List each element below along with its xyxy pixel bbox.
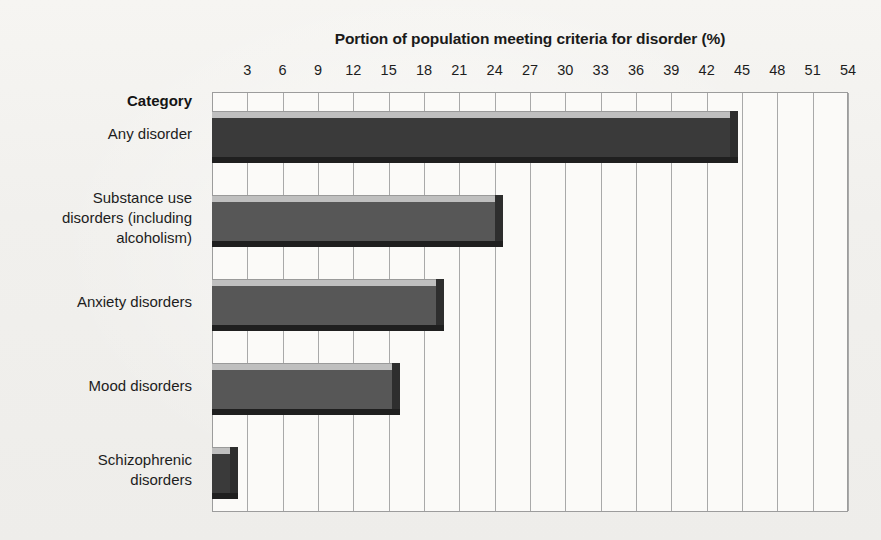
x-tick-label: 51 [805, 62, 821, 78]
x-tick-label: 42 [699, 62, 715, 78]
x-tick-label: 30 [557, 62, 573, 78]
gridline-12 [353, 93, 354, 511]
gridline-9 [318, 93, 319, 511]
x-tick-label: 18 [416, 62, 432, 78]
x-axis-tick-labels: 369121518212427303336394245485154 [0, 62, 881, 86]
gridline-15 [389, 93, 390, 511]
gridline-45 [742, 93, 743, 511]
gridline-36 [636, 93, 637, 511]
chart-title: Portion of population meeting criteria f… [212, 30, 848, 48]
gridline-54 [848, 93, 849, 511]
x-tick-label: 9 [314, 62, 322, 78]
gridline-48 [777, 93, 778, 511]
x-tick-label: 39 [663, 62, 679, 78]
x-tick-label: 24 [487, 62, 503, 78]
gridline-33 [601, 93, 602, 511]
gridline-42 [707, 93, 708, 511]
chart-container: Portion of population meeting criteria f… [0, 0, 881, 540]
gridline-18 [424, 93, 425, 511]
plot-area [212, 92, 848, 512]
x-tick-label: 36 [628, 62, 644, 78]
category-label: Mood disorders [89, 376, 192, 396]
x-tick-label: 15 [381, 62, 397, 78]
x-tick-label: 12 [345, 62, 361, 78]
category-axis-header: Category [127, 92, 192, 109]
gridline-21 [459, 93, 460, 511]
gridline-30 [565, 93, 566, 511]
x-tick-label: 6 [279, 62, 287, 78]
x-tick-label: 48 [769, 62, 785, 78]
x-tick-label: 21 [451, 62, 467, 78]
x-tick-label: 3 [243, 62, 251, 78]
x-tick-label: 54 [840, 62, 856, 78]
gridline-39 [671, 93, 672, 511]
gridline-24 [495, 93, 496, 511]
gridline-6 [283, 93, 284, 511]
category-label: Any disorder [108, 124, 192, 144]
x-tick-label: 33 [593, 62, 609, 78]
category-label: Anxiety disorders [77, 292, 192, 312]
category-label: Substance use disorders (including alcoh… [62, 188, 192, 248]
gridline-3 [247, 93, 248, 511]
gridline-27 [530, 93, 531, 511]
x-tick-label: 45 [734, 62, 750, 78]
gridline-51 [813, 93, 814, 511]
x-tick-label: 27 [522, 62, 538, 78]
category-label: Schizophrenic disorders [98, 450, 192, 490]
